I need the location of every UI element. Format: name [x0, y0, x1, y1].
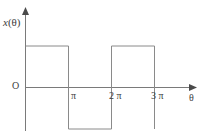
- x-axis-label: θ: [189, 93, 194, 103]
- y-axis-arrow-icon: [22, 7, 29, 15]
- x-tick-label-2pi: 2 π: [109, 91, 122, 101]
- plot-canvas: [0, 0, 202, 138]
- x-tick-label-pi: π: [71, 91, 76, 101]
- origin-label: O: [12, 81, 19, 91]
- y-axis-label: x(θ): [3, 17, 21, 28]
- square-wave-figure: x(θ) O π 2 π 3 π θ: [0, 0, 202, 138]
- y-axis: [22, 7, 29, 131]
- x-tick-label-3pi: 3 π: [151, 91, 164, 101]
- x-axis-arrow-icon: [189, 84, 197, 91]
